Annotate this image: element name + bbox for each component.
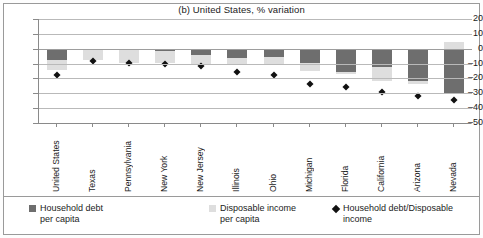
gridline--20 xyxy=(39,78,472,79)
y-tick-label: –40 xyxy=(449,103,483,112)
y-tick-label: 0 xyxy=(449,44,483,53)
gridline--40 xyxy=(39,108,472,109)
legend-label-line1: Household debt xyxy=(40,203,103,214)
x-tick-mark xyxy=(164,123,165,127)
x-tick-mark xyxy=(92,123,93,127)
bar-segment-household-debt xyxy=(336,49,356,72)
ratio-marker xyxy=(306,81,313,88)
x-axis-line xyxy=(38,123,471,124)
x-axis-label: Arizona xyxy=(412,128,422,192)
ratio-marker xyxy=(342,84,349,91)
bar-segment-household-debt xyxy=(300,49,320,64)
y-tick-mark xyxy=(33,108,38,109)
legend-item: Household debtper capita xyxy=(29,203,103,225)
x-axis-labels: United StatesTexasPennsylvaniaNew YorkNe… xyxy=(38,128,471,194)
chart-legend: Household debtper capitaDisposable incom… xyxy=(3,196,480,232)
y-tick-label: 10 xyxy=(449,29,483,38)
legend-label-line1: Disposable income xyxy=(220,203,296,214)
x-axis-label: California xyxy=(376,128,386,192)
legend-item: Household debt/Disposableincome xyxy=(333,203,453,225)
x-axis-label: Illinois xyxy=(231,128,241,192)
x-axis-label: Texas xyxy=(87,128,97,192)
x-axis-label: Nevada xyxy=(448,128,458,192)
x-tick-mark xyxy=(56,123,57,127)
bar-segment-disposable-income xyxy=(47,60,67,70)
y-tick-label: –30 xyxy=(449,88,483,97)
x-axis-label: Pennsylvania xyxy=(123,128,133,192)
legend-label-line2: per capita xyxy=(220,214,296,225)
x-tick-mark xyxy=(273,123,274,127)
chart-screenshot: (b) United States, % variation 20100–10–… xyxy=(0,0,483,238)
x-axis-label: Michigan xyxy=(304,128,314,192)
y-tick-mark xyxy=(33,93,38,94)
y-tick-mark xyxy=(33,34,38,35)
x-tick-mark xyxy=(236,123,237,127)
bar-segment-household-debt xyxy=(408,49,428,82)
x-axis-label: Ohio xyxy=(268,128,278,192)
x-tick-mark xyxy=(381,123,382,127)
ratio-marker xyxy=(234,69,241,76)
legend-label: Household debtper capita xyxy=(40,203,103,225)
bar-segment-household-debt xyxy=(227,49,247,58)
diamond-marker-icon xyxy=(332,205,340,213)
legend-item: Disposable incomeper capita xyxy=(209,203,296,225)
legend-swatch-icon xyxy=(29,205,36,212)
legend-label: Household debt/Disposableincome xyxy=(343,203,453,225)
gridline-20 xyxy=(39,19,472,20)
bar-segment-household-debt xyxy=(264,49,284,57)
x-tick-mark xyxy=(309,123,310,127)
y-tick-mark xyxy=(33,19,38,20)
x-tick-mark xyxy=(345,123,346,127)
bar-segment-disposable-income xyxy=(336,72,356,74)
y-tick-label: 20 xyxy=(449,14,483,23)
x-axis-label: Florida xyxy=(340,128,350,192)
x-tick-mark xyxy=(200,123,201,127)
y-tick-mark xyxy=(33,49,38,50)
gridline--30 xyxy=(39,93,472,94)
gridline-10 xyxy=(39,34,472,35)
x-axis-label: United States xyxy=(51,128,61,192)
bar-segment-disposable-income xyxy=(408,81,428,83)
legend-label-line2: per capita xyxy=(40,214,103,225)
bar-segment-household-debt xyxy=(47,49,67,60)
y-tick-mark xyxy=(33,64,38,65)
x-tick-mark xyxy=(417,123,418,127)
y-tick-label: –10 xyxy=(449,59,483,68)
x-axis-label: New York xyxy=(159,128,169,192)
legend-label: Disposable incomeper capita xyxy=(220,203,296,225)
y-tick-mark xyxy=(33,78,38,79)
y-tick-label: –20 xyxy=(449,73,483,82)
legend-label-line1: Household debt/Disposable xyxy=(343,203,453,214)
ratio-marker xyxy=(270,71,277,78)
plot-area xyxy=(38,19,471,123)
bar-segment-household-debt xyxy=(444,49,464,94)
x-tick-mark xyxy=(453,123,454,127)
gridline-0 xyxy=(39,49,472,50)
legend-swatch-icon xyxy=(209,205,216,212)
legend-label-line2: income xyxy=(343,214,453,225)
x-tick-mark xyxy=(128,123,129,127)
x-axis-label: New Jersey xyxy=(195,128,205,192)
chart-title: (b) United States, % variation xyxy=(0,4,483,15)
gridline--10 xyxy=(39,64,472,65)
